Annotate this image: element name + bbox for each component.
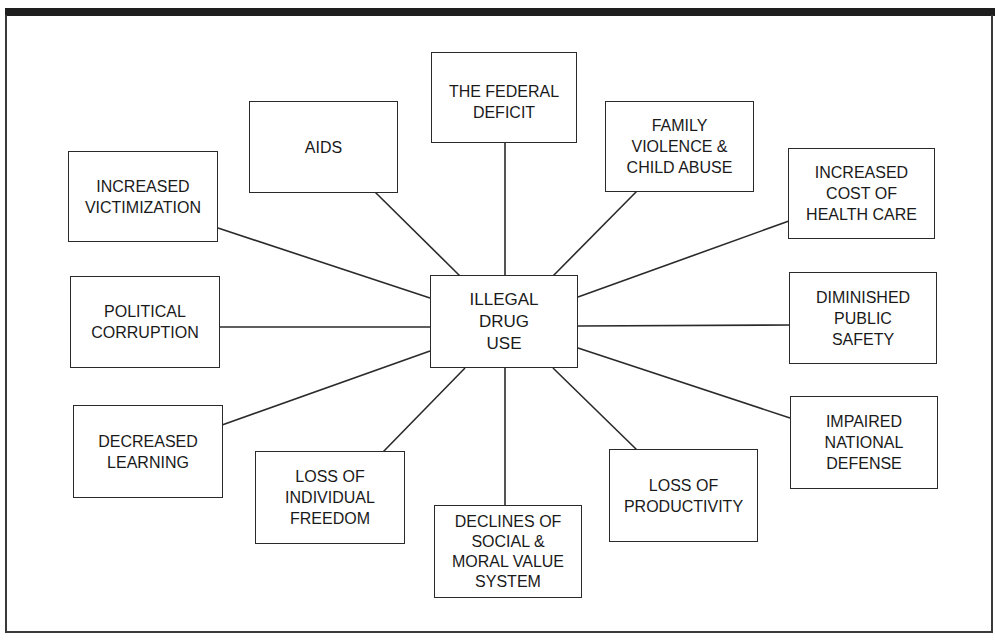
node-public-safety: DIMINISHED PUBLIC SAFETY — [789, 272, 937, 364]
edge-public-safety — [578, 325, 790, 326]
node-productivity: LOSS OF PRODUCTIVITY — [609, 449, 758, 542]
node-health-care: INCREASED COST OF HEALTH CARE — [788, 148, 935, 239]
node-social-moral: DECLINES OF SOCIAL & MORAL VALUE SYSTEM — [434, 505, 582, 598]
edge-productivity — [553, 368, 637, 450]
node-increased-victimization: INCREASED VICTIMIZATION — [68, 151, 218, 242]
node-individual-freedom: LOSS OF INDIVIDUAL FREEDOM — [255, 451, 405, 544]
node-family-violence: FAMILY VIOLENCE & CHILD ABUSE — [605, 101, 754, 192]
node-national-defense: IMPAIRED NATIONAL DEFENSE — [790, 396, 938, 489]
edge-increased-victimization — [218, 228, 430, 298]
node-aids: AIDS — [249, 101, 398, 193]
edge-health-care — [578, 221, 789, 297]
edge-aids — [375, 192, 460, 276]
node-political-corruption: POLITICAL CORRUPTION — [70, 276, 220, 368]
edge-individual-freedom — [383, 368, 465, 452]
node-federal-deficit: THE FEDERAL DEFICIT — [431, 52, 577, 143]
node-illegal-drug-use: ILLEGAL DRUG USE — [430, 275, 578, 368]
edge-decreased-learning — [222, 351, 430, 425]
edge-national-defense — [578, 348, 790, 418]
edge-family-violence — [553, 191, 637, 276]
node-decreased-learning: DECREASED LEARNING — [73, 405, 223, 498]
